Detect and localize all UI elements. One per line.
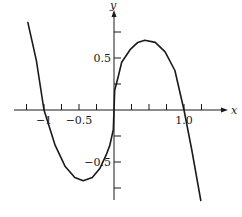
x-tick-label: −0.5 [66, 114, 93, 127]
x-axis-label: x [231, 104, 238, 117]
x-tick-label: 1.0 [175, 114, 193, 127]
function-plot: −1−0.51.0 0.5−0.5 x y [0, 0, 242, 217]
y-tick-label: 0.5 [94, 52, 112, 65]
y-tick-label: −0.5 [84, 156, 111, 169]
x-tick-label: −1 [36, 114, 52, 127]
x-axis-arrow-icon [221, 108, 228, 113]
y-axis-label: y [109, 0, 117, 12]
